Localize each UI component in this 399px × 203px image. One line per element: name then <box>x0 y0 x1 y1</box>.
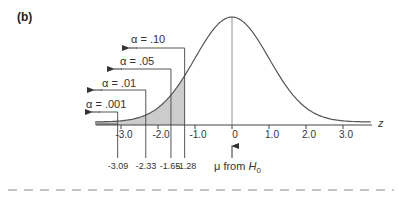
critical-value-309: -3.09 <box>108 161 129 171</box>
alpha-label-05: α = .05 <box>120 55 154 67</box>
z-axis-label: z <box>378 117 384 129</box>
tick-label: 2.0 <box>302 129 316 140</box>
critical-value-128: -1.28 <box>176 161 197 171</box>
tick-label: 1.0 <box>265 129 279 140</box>
critical-value-233: -2.33 <box>136 161 157 171</box>
panel-label: (b) <box>17 10 32 24</box>
tick-label: 3.0 <box>339 129 353 140</box>
tick-label: -3.0 <box>115 129 132 140</box>
normal-curve-diagram <box>0 0 399 203</box>
mean-label: μ from H0 <box>214 160 261 175</box>
tick-label: -2.0 <box>152 129 169 140</box>
tick-label: -1.0 <box>189 129 206 140</box>
alpha-label-01: α = .01 <box>102 77 136 89</box>
alpha-label-10: α = .10 <box>131 33 165 45</box>
alpha-label-001: α = .001 <box>86 98 126 110</box>
tick-label: 0 <box>232 129 238 140</box>
